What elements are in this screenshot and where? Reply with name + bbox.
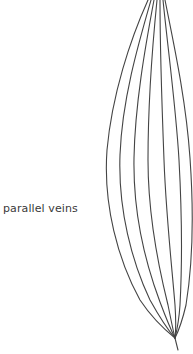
vein-5 [163,0,181,338]
leaf-illustration [0,0,193,354]
vein-4 [160,0,176,338]
leaf-stem [175,338,178,350]
vein-3 [148,0,175,338]
